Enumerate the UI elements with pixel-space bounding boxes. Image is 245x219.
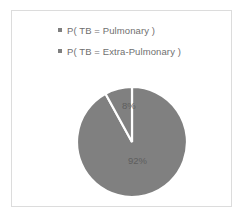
legend-item-label: P( TB = Pulmonary ) — [67, 25, 155, 36]
square-marker-icon — [58, 28, 62, 32]
square-marker-icon — [58, 49, 62, 53]
chart-legend: P( TB = Pulmonary ) P( TB = Extra-Pulmon… — [58, 20, 218, 62]
legend-item-pulmonary[interactable]: P( TB = Pulmonary ) — [58, 20, 218, 40]
legend-item-label: P( TB = Extra-Pulmonary ) — [67, 46, 181, 57]
legend-item-extra-pulmonary[interactable]: P( TB = Extra-Pulmonary ) — [58, 41, 218, 61]
chart-frame: P( TB = Pulmonary ) P( TB = Extra-Pulmon… — [11, 10, 232, 207]
pie-chart: 8% 92% — [76, 86, 188, 198]
pie-slice-minor-label: 8% — [122, 100, 136, 111]
pie-slice-major-label: 92% — [128, 155, 147, 166]
